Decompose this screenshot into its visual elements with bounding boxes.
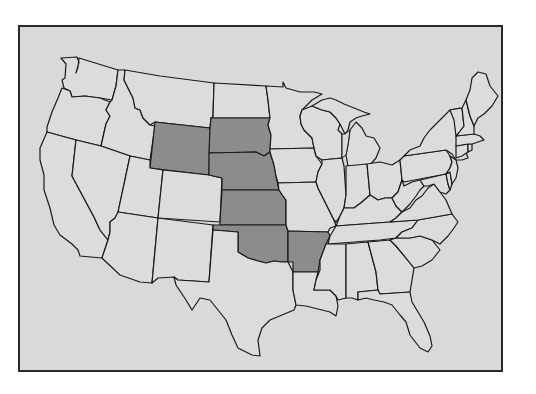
state-maine[interactable] <box>466 72 498 126</box>
state-florida[interactable] <box>358 290 432 352</box>
state-rhode-island[interactable] <box>468 144 472 152</box>
state-colorado[interactable] <box>158 170 222 222</box>
state-new-mexico[interactable] <box>152 218 213 283</box>
state-wyoming[interactable] <box>150 122 210 175</box>
us-map <box>0 0 536 394</box>
state-arizona[interactable] <box>102 212 158 283</box>
state-south-dakota[interactable] <box>209 118 271 156</box>
state-iowa[interactable] <box>270 148 322 183</box>
state-kansas[interactable] <box>220 190 286 225</box>
state-north-dakota[interactable] <box>211 83 270 118</box>
